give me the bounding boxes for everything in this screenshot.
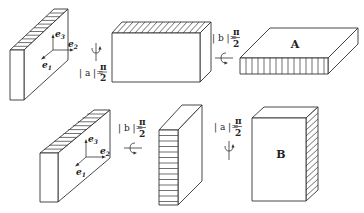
horizontal-rotation-arrow-icon	[124, 143, 142, 155]
bottom-rotation-b: | b |= π 2	[118, 117, 146, 155]
bottom-box2	[159, 105, 202, 205]
rotation-composition-diagram: e3 e2 e1 | a |= π 2	[0, 0, 364, 213]
top-a-denominator: 2	[100, 73, 106, 83]
top-rotation-a: | a |= π 2	[79, 43, 107, 83]
top-box3-A: A	[240, 28, 358, 74]
top-box2	[112, 22, 211, 82]
vertical-rotation-arrow-icon	[92, 43, 102, 61]
vertical-rotation-arrow-icon	[225, 141, 235, 160]
top-b-numerator: π	[233, 27, 240, 37]
top-box1: e3 e2 e1	[10, 9, 78, 100]
top-box2-right-face	[200, 22, 211, 82]
bottom-box1: e3 e2 e1	[40, 110, 110, 202]
e2-label: e2	[68, 39, 78, 50]
horizontal-rotation-arrow-icon	[215, 53, 233, 65]
top-a-numerator: π	[100, 62, 107, 72]
label-A: A	[290, 38, 300, 51]
top-b-denominator: 2	[233, 39, 239, 49]
bottom-a-numerator: π	[235, 116, 242, 126]
bottom-box1-front-face	[40, 153, 58, 202]
top-rotation-b: | b |= π 2	[212, 27, 240, 65]
bottom-box3-B: B	[252, 107, 318, 201]
bottom-b-denominator: 2	[139, 129, 145, 139]
bottom-a-denominator: 2	[235, 128, 241, 138]
bottom-rotation-a: | a |= π 2	[214, 116, 242, 160]
top-box1-front-face	[10, 50, 24, 100]
top-box2-front-face	[112, 33, 200, 82]
label-B: B	[276, 148, 285, 161]
top-box3-front-face	[240, 58, 328, 74]
bottom-b-numerator: π	[139, 117, 146, 127]
